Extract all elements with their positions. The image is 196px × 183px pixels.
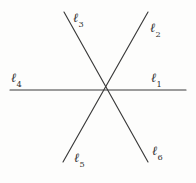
ell-symbol-l6: ℓ [152,143,157,158]
ell-subscript-l5: 5 [80,159,85,169]
ray-label-l4: ℓ4 [11,72,21,87]
ell-symbol-l3: ℓ [73,10,78,25]
ell-symbol-l1: ℓ [151,70,156,85]
ell-subscript-l2: 2 [156,29,161,39]
ell-subscript-l6: 6 [158,152,163,162]
ell-subscript-l4: 4 [17,79,22,89]
ray-label-l2: ℓ2 [150,22,160,37]
ray-label-l5: ℓ5 [74,152,84,167]
line-diagram-figure: ℓ4 ℓ1 ℓ3 ℓ2 ℓ5 ℓ6 [0,0,196,183]
ell-symbol-l5: ℓ [74,150,79,165]
ell-symbol-l4: ℓ [11,70,16,85]
ray-label-l1: ℓ1 [151,72,161,87]
ell-symbol-l2: ℓ [150,20,155,35]
ell-subscript-l1: 1 [157,79,162,89]
diagram-canvas [0,0,196,183]
ray-label-l6: ℓ6 [152,145,162,160]
ell-subscript-l3: 3 [79,19,84,29]
ray-label-l3: ℓ3 [73,12,83,27]
